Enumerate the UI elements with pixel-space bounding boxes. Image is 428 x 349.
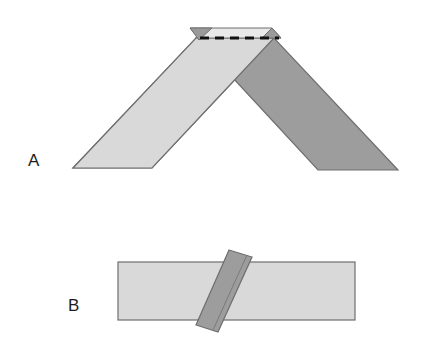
panel-b: B [68, 250, 355, 332]
left-band-overlap [73, 38, 274, 168]
figure-canvas: A B [0, 0, 428, 349]
panel-a: A [28, 28, 398, 170]
figure-root: A B [0, 0, 428, 349]
panel-label-a: A [28, 151, 40, 170]
panel-label-b: B [68, 296, 79, 315]
